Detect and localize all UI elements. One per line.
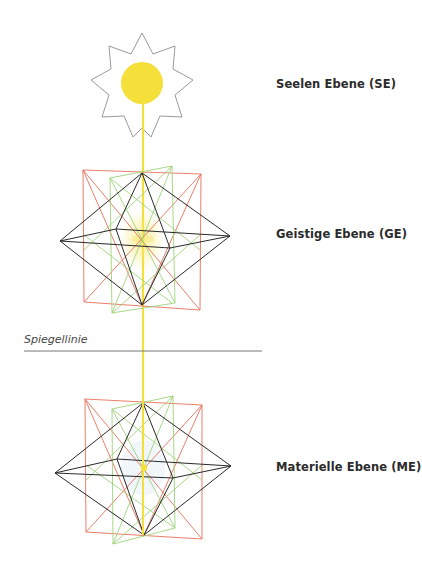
sun-circle-icon [121, 62, 163, 104]
material-plane-label: Materielle Ebene (ME) [276, 460, 421, 474]
spirit-plane-label: Geistige Ebene (GE) [276, 227, 407, 241]
soul-plane-label: Seelen Ebene (SE) [276, 77, 396, 91]
material-core-dot-icon [141, 465, 147, 471]
upper-polyhedron [60, 166, 230, 313]
mirror-line-label: Spiegellinie [24, 333, 88, 346]
lower-polyhedron [55, 380, 231, 544]
